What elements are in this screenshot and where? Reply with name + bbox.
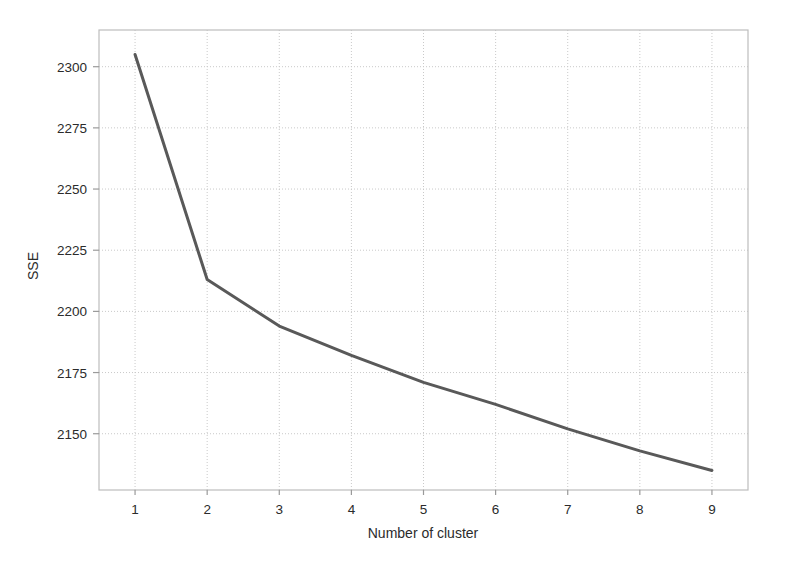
x-tick-label: 8 <box>636 502 644 517</box>
x-tick-label: 3 <box>276 502 284 517</box>
y-axis-title: SSE <box>25 252 41 280</box>
x-axis-title: Number of cluster <box>368 525 479 541</box>
x-tick-label: 2 <box>203 502 211 517</box>
y-tick-label: 2200 <box>57 304 87 319</box>
y-tick-label: 2225 <box>57 243 87 258</box>
x-tick-label: 6 <box>492 502 500 517</box>
x-tick-label: 1 <box>131 502 139 517</box>
y-tick-label: 2275 <box>57 121 87 136</box>
y-tick-label: 2250 <box>57 182 87 197</box>
y-tick-label: 2175 <box>57 366 87 381</box>
chart-container: 123456789 2150217522002225225022752300 N… <box>0 0 788 564</box>
y-tick-label: 2300 <box>57 60 87 75</box>
x-tick-label: 5 <box>420 502 428 517</box>
y-tick-label: 2150 <box>57 427 87 442</box>
sse-elbow-line-chart: 123456789 2150217522002225225022752300 N… <box>0 0 788 564</box>
x-tick-label: 7 <box>564 502 572 517</box>
x-tick-label: 9 <box>708 502 716 517</box>
x-tick-label: 4 <box>348 502 356 517</box>
